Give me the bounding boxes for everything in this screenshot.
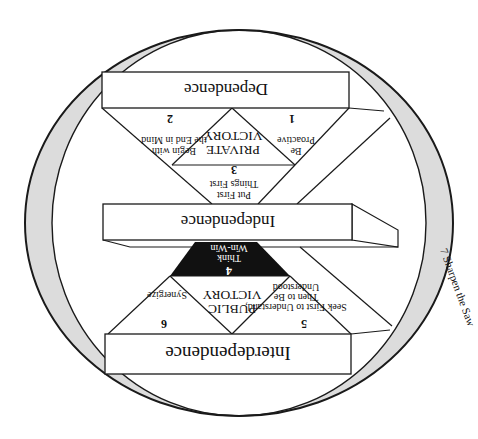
habit-2-line1: Begin with [152, 146, 196, 157]
habit-3-number: 3 [231, 163, 237, 177]
private-victory-label: PRIVATE VICTORY [203, 129, 262, 158]
habit-4-line2: Win-Win [211, 243, 248, 254]
private-label-line2: VICTORY [203, 129, 262, 144]
habit-3-line2: Things First [209, 179, 258, 190]
interdependence-label: Interdependence [165, 343, 291, 364]
independence-level: Independence [103, 204, 398, 247]
interdependence-level: Interdependence [105, 334, 351, 374]
habit-2-number: 2 [167, 112, 173, 126]
habit-1-line1: Be [290, 146, 302, 157]
private-label-line1: PRIVATE [206, 143, 260, 158]
dependence-level: Dependence [102, 72, 349, 108]
habit-5-number: 5 [301, 317, 307, 331]
habit-3-line1: Put First [217, 190, 251, 201]
habit-6: 6 Synergize [147, 290, 187, 331]
habit-1-line2: Proactive [277, 135, 315, 146]
habit-5-line3: Understood [273, 282, 320, 293]
habit-1-number: 1 [289, 112, 295, 126]
habits-diagram: Dependence Independence Interdependence … [0, 0, 478, 439]
habit-7-ring-label: 7 Sharpen the Saw [438, 247, 477, 328]
sharpen-the-saw-label: 7 Sharpen the Saw [438, 247, 477, 328]
habit-4-number: 4 [226, 264, 232, 278]
independence-label: Independence [181, 212, 275, 231]
public-label-line2: VICTORY [202, 288, 261, 303]
habit-6-line1: Synergize [147, 290, 187, 301]
habit-6-number: 6 [161, 317, 167, 331]
habit-2-line2: the End in Mind [141, 135, 206, 146]
dependence-label: Dependence [184, 80, 268, 99]
habit-3: 3 Put First Things First [209, 163, 258, 201]
